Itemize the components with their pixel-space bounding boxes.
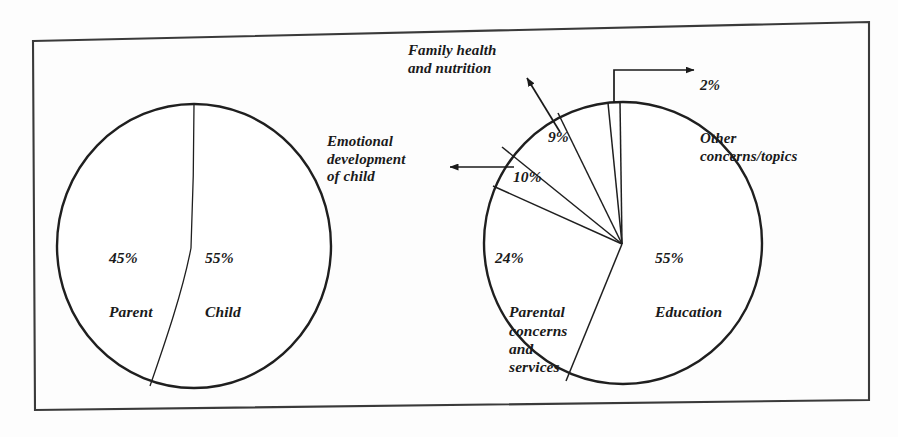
- right-pie-percent-emotional-development: 10%: [513, 168, 542, 186]
- left-pie-parent-label: Parent: [109, 303, 153, 321]
- parental-concerns-label: Parental concerns and services: [495, 303, 568, 376]
- right-pie-label-education: 55% Education: [655, 212, 722, 358]
- left-pie-child-percent: 55%: [205, 249, 241, 267]
- right-pie-label-parental-concerns: 24% Parental concerns and services: [495, 212, 568, 413]
- other-concerns-label: Other concerns/topics: [700, 130, 797, 165]
- education-label: Education: [655, 303, 722, 321]
- figure-container: 45% Parent 55% Child 55% Education 24% P…: [0, 0, 898, 437]
- parental-concerns-percent: 24%: [495, 249, 568, 267]
- left-pie-parent-percent: 45%: [109, 249, 153, 267]
- other-concerns-leader: [614, 70, 694, 103]
- family-health-callout: Family health and nutrition: [408, 42, 496, 77]
- left-pie-chart: [57, 104, 331, 388]
- other-concerns-callout: 2% Other concerns/topics: [700, 42, 797, 201]
- right-pie-percent-family-health: 9%: [548, 128, 569, 146]
- left-pie-child-label: Child: [205, 303, 241, 321]
- family-health-leader: [527, 78, 560, 132]
- education-percent: 55%: [655, 249, 722, 267]
- other-concerns-percent: 2%: [700, 77, 797, 95]
- left-pie-label-parent: 45% Parent: [109, 212, 153, 358]
- left-pie-label-child: 55% Child: [205, 212, 241, 358]
- emotional-development-callout: Emotional development of child: [327, 133, 406, 186]
